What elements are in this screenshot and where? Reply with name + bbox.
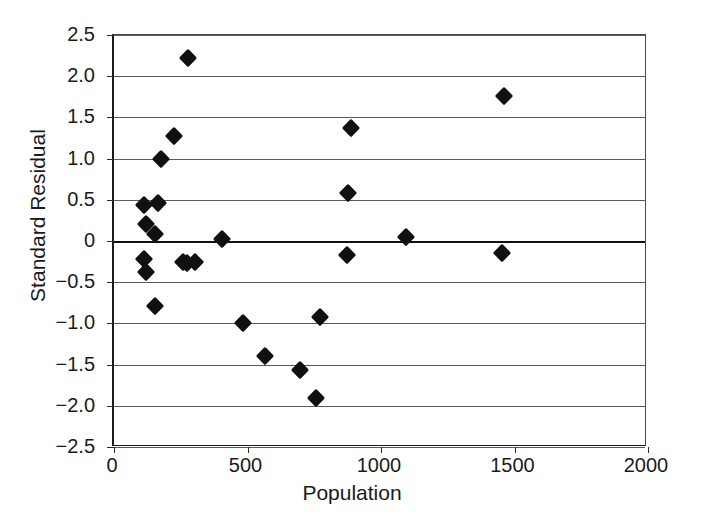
y-axis-tick-label: −1.5 xyxy=(0,354,95,374)
y-axis-tick-label: 1.5 xyxy=(0,106,95,126)
y-axis-tick xyxy=(107,241,114,242)
y-axis-tick xyxy=(107,447,114,448)
data-point-marker xyxy=(493,243,511,261)
scatter-plot-figure: Standard Residual Population −2.5−2.0−1.… xyxy=(0,0,704,519)
x-axis-tick xyxy=(515,447,516,453)
data-point-marker xyxy=(234,314,252,332)
y-axis-tick xyxy=(107,159,114,160)
x-axis-tick-label: 500 xyxy=(196,455,296,475)
y-axis-tick-label: 2.0 xyxy=(0,65,95,85)
x-axis-tick xyxy=(114,447,115,453)
gridline xyxy=(114,200,645,201)
x-axis-tick xyxy=(381,447,382,453)
y-axis-tick xyxy=(107,282,114,283)
data-point-marker xyxy=(164,126,182,144)
gridline xyxy=(114,447,645,448)
data-point-marker xyxy=(137,263,155,281)
gridline xyxy=(114,365,645,366)
y-axis-tick-label: 0 xyxy=(0,230,95,250)
gridline xyxy=(114,159,645,160)
y-axis-tick-label: −2.0 xyxy=(0,395,95,415)
data-point-marker xyxy=(307,388,325,406)
data-point-marker xyxy=(213,230,231,248)
y-axis-tick-label: 2.5 xyxy=(0,24,95,44)
data-point-marker xyxy=(291,360,309,378)
data-point-marker xyxy=(397,228,415,246)
gridline xyxy=(114,35,645,36)
y-axis-tick xyxy=(107,365,114,366)
y-axis-tick-label: 1.0 xyxy=(0,148,95,168)
data-point-marker xyxy=(255,346,273,364)
y-axis-tick-label: −2.5 xyxy=(0,436,95,456)
x-axis-tick xyxy=(248,447,249,453)
gridline xyxy=(114,76,645,77)
y-axis-tick xyxy=(107,406,114,407)
x-axis-title: Population xyxy=(0,482,704,503)
plot-area xyxy=(112,34,646,446)
x-axis-tick-label: 1500 xyxy=(463,455,563,475)
gridline xyxy=(114,117,645,118)
y-axis-tick xyxy=(107,35,114,36)
y-axis-tick xyxy=(107,323,114,324)
data-point-marker xyxy=(152,150,170,168)
y-axis-tick-label: −0.5 xyxy=(0,271,95,291)
data-point-marker xyxy=(179,49,197,67)
x-axis-tick xyxy=(648,447,649,453)
zero-reference-line xyxy=(114,241,645,243)
y-axis-tick-label: −1.0 xyxy=(0,312,95,332)
data-point-marker xyxy=(149,194,167,212)
gridline xyxy=(114,406,645,407)
gridline xyxy=(114,323,645,324)
x-axis-tick-label: 2000 xyxy=(596,455,696,475)
data-point-marker xyxy=(146,297,164,315)
x-axis-tick-label: 0 xyxy=(62,455,162,475)
y-axis-tick xyxy=(107,200,114,201)
y-axis-tick xyxy=(107,117,114,118)
data-point-marker xyxy=(494,87,512,105)
gridline xyxy=(114,282,645,283)
data-point-marker xyxy=(338,246,356,264)
data-point-marker xyxy=(342,119,360,137)
x-axis-tick-label: 1000 xyxy=(329,455,429,475)
y-axis-tick-label: 0.5 xyxy=(0,189,95,209)
y-axis-tick xyxy=(107,76,114,77)
